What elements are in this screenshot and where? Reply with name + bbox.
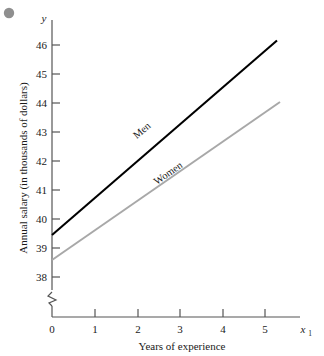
y-tick-label: 43 — [36, 126, 48, 138]
series-label-men: Men — [131, 119, 153, 140]
y-axis-break-icon — [48, 292, 56, 306]
y-tick-label: 40 — [36, 213, 48, 225]
x-tick-label: 3 — [177, 323, 183, 335]
series-label-women: Women — [152, 159, 185, 187]
x-tick-label: 2 — [135, 323, 141, 335]
x-axis-ticks: 0 1 2 3 4 5 — [49, 309, 268, 335]
x-tick-label: 4 — [220, 323, 226, 335]
y-tick-label: 41 — [36, 184, 47, 196]
x-tick-label: 1 — [92, 323, 98, 335]
y-tick-label: 46 — [36, 39, 48, 51]
y-axis-variable-name: y — [41, 12, 47, 24]
chart-figure: y 46 45 44 43 42 41 40 39 38 0 — [0, 0, 324, 356]
x-axis-caption: Years of experience — [139, 340, 226, 352]
y-tick-label: 38 — [36, 271, 48, 283]
x-tick-label: 0 — [49, 323, 55, 335]
corner-dot-icon — [4, 8, 14, 18]
y-axis-ticks: 46 45 44 43 42 41 40 39 38 — [36, 39, 60, 283]
y-axis-caption: Annual salary (in thousands of dollars) — [17, 82, 30, 254]
y-tick-label: 42 — [36, 155, 47, 167]
x-tick-label: 5 — [262, 323, 268, 335]
y-tick-label: 44 — [36, 97, 48, 109]
y-tick-label: 45 — [36, 68, 48, 80]
series-line-men — [52, 41, 277, 236]
salary-vs-experience-line-chart: y 46 45 44 43 42 41 40 39 38 0 — [0, 0, 324, 356]
x-axis-variable-subscript: 1 — [308, 329, 312, 338]
x-axis-variable-name: x — [300, 323, 306, 335]
y-tick-label: 39 — [36, 242, 48, 254]
